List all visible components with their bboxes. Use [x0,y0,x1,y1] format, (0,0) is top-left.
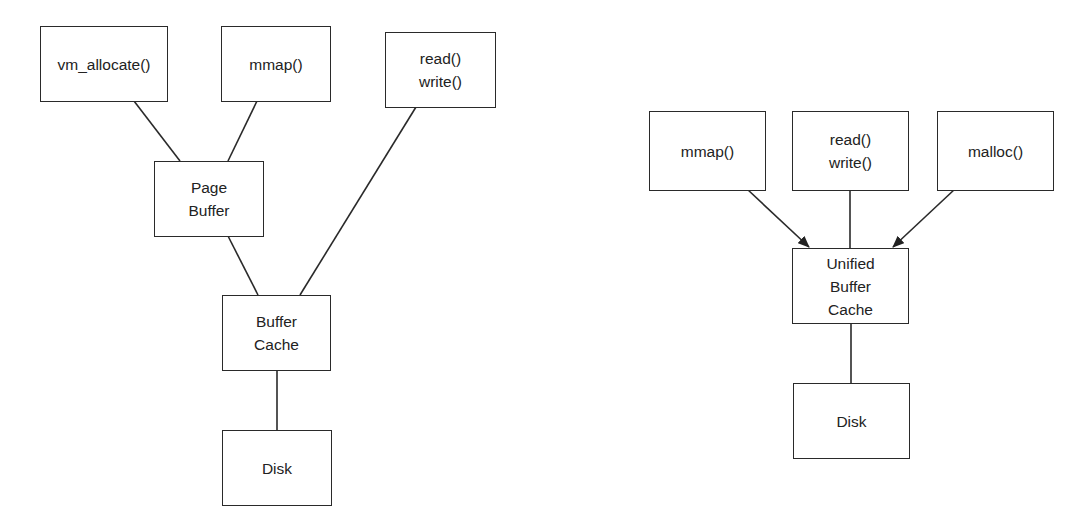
node-buffer-cache: Buffer Cache [222,295,331,371]
node-label-line2: write() [419,70,462,93]
node-label-line1: Buffer [256,310,297,333]
node-readwrite-right: read() write() [792,111,909,191]
node-label-line1: Unified [826,252,874,275]
node-mmap-right: mmap() [649,111,766,191]
node-label: vm_allocate() [57,53,150,76]
node-label-line1: read() [830,128,871,151]
node-label-line2: write() [829,151,872,174]
node-label: malloc() [968,140,1023,163]
edge-readwrite-to-buffer-cache [300,107,416,295]
node-label-line1: Page [191,176,227,199]
edge-vm-allocate-to-page-buffer [134,101,180,161]
arrow-malloc-to-unified-cache [893,189,955,247]
node-label-line3: Cache [828,298,873,321]
edge-mmap-to-page-buffer [228,101,257,161]
node-mmap-left: mmap() [221,26,331,102]
node-disk-right: Disk [793,383,910,459]
node-label: Disk [836,410,866,433]
node-vm-allocate: vm_allocate() [40,26,168,102]
node-label: mmap() [681,140,734,163]
node-malloc: malloc() [937,111,1054,191]
node-label-line1: read() [420,47,461,70]
node-readwrite-left: read() write() [385,32,496,108]
node-disk-left: Disk [222,430,332,506]
node-label: Disk [262,457,292,480]
edge-page-buffer-to-buffer-cache [228,236,258,295]
node-label-line2: Cache [254,333,299,356]
arrow-mmap-to-unified-cache [747,189,809,247]
node-label: mmap() [249,53,302,76]
node-page-buffer: Page Buffer [154,161,264,237]
node-label-line2: Buffer [830,275,871,298]
node-label-line2: Buffer [188,199,229,222]
node-unified-buffer-cache: Unified Buffer Cache [792,248,909,324]
